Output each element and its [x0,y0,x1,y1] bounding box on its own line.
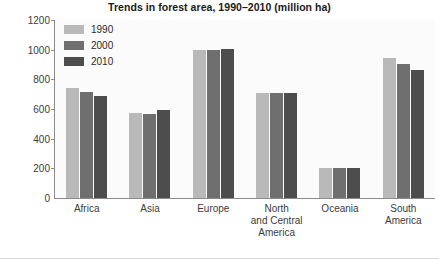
y-tick-label: 0 [10,193,50,204]
bar [80,92,93,198]
bar [221,49,234,198]
y-tick-label: 1200 [10,15,50,26]
bar-group [118,20,181,198]
y-tick-label: 1000 [10,44,50,55]
chart-figure: Trends in forest area, 1990–2010 (millio… [0,0,439,259]
bar [94,96,107,198]
bar [319,168,332,198]
bar [66,88,79,199]
chart-legend: 199020002010 [64,22,113,70]
x-tick-label-line: and Central [245,215,308,227]
bar-group [372,20,435,198]
bar [347,168,360,198]
x-tick-label-line: America [372,215,435,227]
x-tick-label-line: Asia [118,203,181,215]
x-tick-label: Oceania [308,203,371,215]
bar-group [182,20,245,198]
x-tick-label-line: South [372,203,435,215]
bar [207,50,220,198]
bar [193,50,206,198]
x-tick-label-line: America [245,227,308,239]
legend-swatch [64,57,84,66]
legend-item: 2010 [64,54,113,68]
chart-title: Trends in forest area, 1990–2010 (millio… [0,1,439,13]
legend-label: 1990 [91,24,113,35]
y-tick-label: 800 [10,74,50,85]
y-tick-label: 400 [10,133,50,144]
x-tick-label: Asia [118,203,181,215]
bar [333,168,346,198]
legend-label: 2010 [91,56,113,67]
bar [284,93,297,198]
legend-swatch [64,25,84,34]
bar [157,110,170,198]
x-tick-label-line: Oceania [308,203,371,215]
bar-group [308,20,371,198]
bar [256,93,269,198]
bar [383,58,396,198]
bar [129,113,142,198]
legend-swatch [64,41,84,50]
bar-group [245,20,308,198]
legend-label: 2000 [91,40,113,51]
y-tick-label: 200 [10,163,50,174]
x-tick-label: Africa [55,203,118,215]
legend-item: 2000 [64,38,113,52]
bar [143,114,156,198]
bar [411,70,424,198]
legend-item: 1990 [64,22,113,36]
x-tick-label-line: Europe [182,203,245,215]
bar [397,64,410,198]
x-tick-label-line: Africa [55,203,118,215]
bar [270,93,283,198]
y-tick-label: 600 [10,104,50,115]
x-tick-label-line: North [245,203,308,215]
x-tick-label: Northand CentralAmerica [245,203,308,239]
x-tick-label: Europe [182,203,245,215]
x-axis-line [55,198,435,199]
x-tick-label: SouthAmerica [372,203,435,227]
y-axis-labels: 020040060080010001200 [4,0,50,259]
